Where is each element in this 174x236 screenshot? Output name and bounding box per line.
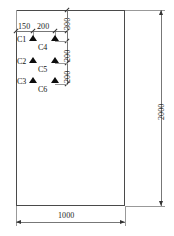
extension-stub-row1 [55, 41, 68, 42]
sensor-label-c1: C1 [17, 35, 26, 44]
overall-width-label: 1000 [58, 211, 74, 220]
arrowhead-up [159, 10, 163, 15]
sensor-label-c4: C4 [38, 43, 47, 52]
dimension-label-200-top: 200 [37, 22, 49, 31]
arrowhead-down [159, 201, 163, 206]
extension-line-bottom-right2 [125, 206, 126, 226]
extension-stub-row2 [55, 63, 68, 64]
triangle-marker-c2 [29, 57, 37, 63]
drawing-canvas: 150 200 300 200 200 C1 C4 C2 C5 C3 C6 20… [0, 0, 174, 236]
arrowhead-left [16, 220, 21, 224]
triangle-marker-c5 [51, 57, 59, 63]
triangle-marker-c4 [51, 35, 59, 41]
dimension-label-200-mid: 200 [63, 50, 72, 62]
triangle-marker-c6 [51, 77, 59, 83]
sensor-label-c6: C6 [38, 85, 47, 94]
overall-height-label: 2000 [157, 104, 166, 120]
arrowhead-right [120, 220, 125, 224]
overall-width-dimension-line [16, 222, 125, 223]
triangle-marker-c3 [29, 77, 37, 83]
sensor-label-c2: C2 [17, 57, 26, 66]
triangle-marker-c1 [29, 35, 37, 41]
sensor-label-c5: C5 [38, 65, 47, 74]
dimension-label-150: 150 [18, 22, 30, 31]
extension-line-bottom-right [125, 206, 165, 207]
extension-stub-row3 [55, 84, 68, 85]
dimension-label-200-low: 200 [63, 71, 72, 83]
horizontal-dimension-line [16, 31, 67, 32]
sensor-label-c3: C3 [17, 77, 26, 86]
